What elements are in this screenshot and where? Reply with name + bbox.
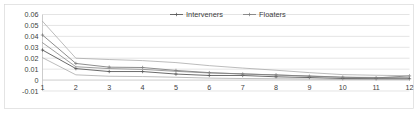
x-tick-label: 9 (307, 83, 311, 92)
x-tick-label: 10 (339, 83, 347, 92)
y-tick-label: 0 (35, 76, 39, 85)
y-tick-label: 0.05 (25, 21, 39, 30)
x-tick-label: 5 (174, 83, 178, 92)
chart-canvas: 0.060.050.040.030.020.010-0.01 123456789… (0, 0, 418, 113)
legend-label: Floaters (259, 10, 286, 19)
legend-label: Interveners (186, 10, 223, 19)
y-tick-label: 0.04 (25, 32, 39, 41)
x-tick-label: 6 (207, 83, 211, 92)
x-tick-label: 12 (406, 83, 414, 92)
x-tick-label: 11 (372, 83, 379, 92)
x-tick-label: 1 (41, 83, 45, 92)
y-tick-label: 0.06 (25, 10, 39, 19)
y-tick-label: 0.02 (25, 54, 39, 63)
y-tick-label: 0.01 (25, 65, 39, 74)
line-chart: 0.060.050.040.030.020.010-0.01 123456789… (0, 0, 418, 113)
y-tick-label: 0.03 (25, 43, 39, 52)
y-tick-label: -0.01 (22, 87, 38, 96)
x-tick-label: 7 (241, 83, 245, 92)
x-tick-label: 3 (107, 83, 111, 92)
x-tick-label: 8 (274, 83, 278, 92)
x-tick-label: 4 (141, 83, 145, 92)
x-tick-label: 2 (74, 83, 78, 92)
